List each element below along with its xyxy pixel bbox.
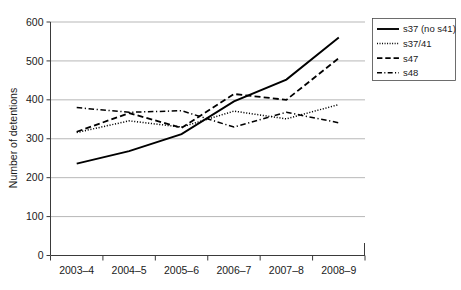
x-axis-tick-label: 2003–4 <box>59 264 94 276</box>
chart-legend: s37 (no s41)s37/41s47s48 <box>373 19 456 81</box>
y-axis-tick-label: 400 <box>26 93 44 105</box>
x-axis-tick-label: 2008–9 <box>321 264 356 276</box>
y-axis-tick-label: 300 <box>26 132 44 144</box>
x-axis-tick-label: 2006–7 <box>216 264 251 276</box>
chart-figure: 0100200300400500600 2003–42004–52005–620… <box>0 0 461 290</box>
x-axis-tick-label: 2005–6 <box>164 264 199 276</box>
y-axis-tick-label: 500 <box>26 55 44 67</box>
legend-label: s47 <box>403 53 418 64</box>
y-axis-tick-label: 600 <box>26 16 44 28</box>
y-axis-title: Number of detentions <box>7 88 19 188</box>
x-axis-tick-label: 2007–8 <box>269 264 304 276</box>
legend-label: s37/41 <box>403 38 432 49</box>
detentions-line-chart: 0100200300400500600 2003–42004–52005–620… <box>0 0 461 290</box>
y-axis-tick-label: 100 <box>26 210 44 222</box>
legend-label: s48 <box>403 67 418 78</box>
x-axis-tick-label: 2004–5 <box>112 264 147 276</box>
y-axis-tick-label: 200 <box>26 171 44 183</box>
y-axis-tick-label: 0 <box>38 249 44 261</box>
legend-label: s37 (no s41) <box>403 23 456 34</box>
